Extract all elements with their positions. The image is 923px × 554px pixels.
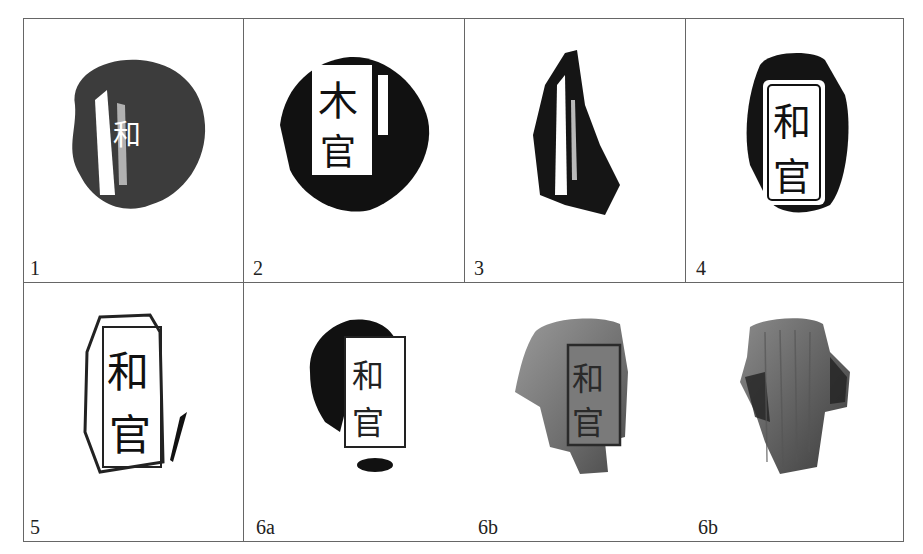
- grid-col-divider-2: [464, 18, 465, 282]
- grid-middle-divider: [23, 282, 904, 283]
- cell-label-2: 2: [253, 258, 263, 278]
- seal-rubbing-1: 和: [55, 45, 215, 220]
- svg-text:木: 木: [318, 78, 358, 124]
- cell-label-6b-back: 6b: [698, 517, 718, 537]
- svg-text:官: 官: [109, 411, 151, 460]
- svg-text:官: 官: [773, 155, 811, 199]
- grid-right-border: [903, 18, 904, 542]
- svg-text:和: 和: [773, 100, 811, 144]
- cell-label-4: 4: [696, 258, 706, 278]
- seal-rubbing-2: 木 官: [270, 45, 440, 220]
- grid-col-divider-1: [243, 18, 244, 542]
- grid-left-border: [23, 18, 24, 542]
- cell-label-5: 5: [30, 517, 40, 537]
- seal-rubbing-3: [525, 45, 630, 220]
- grid-col-divider-3: [685, 18, 686, 282]
- cell-label-6a: 6a: [256, 517, 275, 537]
- cell-label-6b-front: 6b: [478, 517, 498, 537]
- svg-text:和: 和: [352, 357, 384, 395]
- seal-rubbing-5: 和 官: [75, 312, 195, 482]
- svg-text:官: 官: [572, 404, 604, 442]
- svg-text:和: 和: [113, 119, 141, 152]
- cell-label-1: 1: [30, 258, 40, 278]
- cell-label-3: 3: [474, 258, 484, 278]
- svg-text:官: 官: [352, 404, 384, 442]
- seal-photo-6b-back: [735, 312, 855, 477]
- svg-text:和: 和: [107, 348, 149, 397]
- svg-text:和: 和: [572, 360, 604, 398]
- seal-rubbing-6a: 和 官: [300, 312, 415, 477]
- svg-text:官: 官: [320, 132, 356, 173]
- seal-rubbing-4: 和 官: [735, 45, 855, 220]
- seal-photo-6b-front: 和 官: [510, 312, 640, 477]
- grid-bottom-border: [23, 541, 904, 542]
